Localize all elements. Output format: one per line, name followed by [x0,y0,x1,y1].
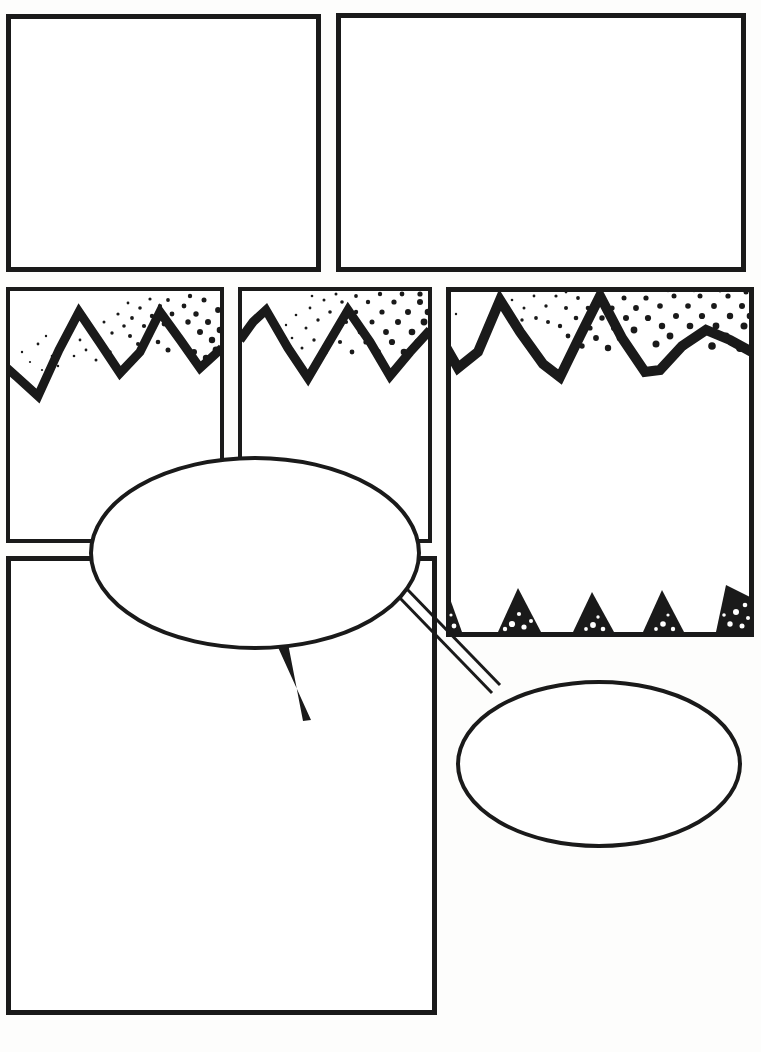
panel-middle-right-border [449,290,752,635]
comic-page [0,0,761,1052]
panel-top-right-border [339,16,744,270]
balloon-main-text [110,500,400,610]
panel-top-right[interactable] [339,16,744,270]
speech-balloon-linked[interactable] [458,682,740,846]
panel-top-left-border [9,17,319,270]
panel-middle-right[interactable] [442,288,753,635]
balloon-linked-text [475,718,723,810]
comic-page-canvas [0,0,761,1052]
panel-top-left[interactable] [9,17,319,270]
